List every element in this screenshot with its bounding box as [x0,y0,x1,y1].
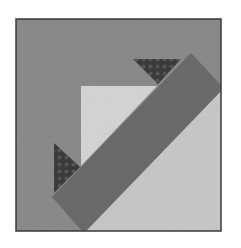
quilt-block-image [0,0,241,248]
